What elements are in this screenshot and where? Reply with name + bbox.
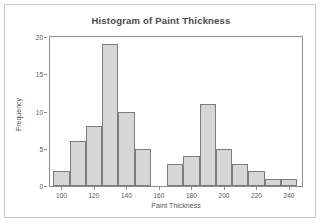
y-axis-tick (44, 37, 47, 38)
chart-title: Histogram of Paint Thickness (5, 15, 317, 26)
histogram-bar (167, 164, 183, 186)
histogram-bar (265, 179, 281, 186)
y-axis-tick-label: 10 (13, 108, 43, 115)
x-axis-tick (191, 187, 192, 190)
histogram-bar (281, 179, 297, 186)
x-axis-tick (94, 187, 95, 190)
histogram-bars (50, 37, 302, 186)
y-axis-tick (44, 186, 47, 187)
y-axis-tick (44, 149, 47, 150)
x-axis-tick (61, 187, 62, 190)
y-axis-tick (44, 74, 47, 75)
histogram-bar (86, 126, 102, 186)
histogram-bar (53, 171, 69, 186)
x-axis-tick-label: 200 (210, 192, 238, 199)
histogram-bar (183, 156, 199, 186)
x-axis-tick-label: 220 (242, 192, 270, 199)
y-axis-tick-label: 20 (13, 34, 43, 41)
histogram-bar (248, 171, 264, 186)
image-frame: Histogram of Paint Thickness Frequency 0… (4, 4, 316, 218)
x-axis-title: Paint Thickness (49, 202, 303, 209)
histogram-bar (70, 141, 86, 186)
x-axis-tick (256, 187, 257, 190)
x-axis-tick-label: 160 (145, 192, 173, 199)
x-axis-tick (289, 187, 290, 190)
y-axis-tick-label: 0 (13, 183, 43, 190)
x-axis-tick-label: 180 (177, 192, 205, 199)
histogram-bar (200, 104, 216, 186)
histogram-bar (102, 44, 118, 186)
x-axis-tick (224, 187, 225, 190)
y-axis-tick-label: 5 (13, 145, 43, 152)
histogram-bar (118, 112, 134, 187)
x-axis-tick (159, 187, 160, 190)
y-axis-tick-label: 15 (13, 71, 43, 78)
y-axis-tick (44, 112, 47, 113)
histogram-bar (216, 149, 232, 186)
x-axis-tick-label: 240 (275, 192, 303, 199)
x-axis-tick (126, 187, 127, 190)
x-axis-tick-label: 120 (80, 192, 108, 199)
histogram-bar (135, 149, 151, 186)
x-axis-tick-label: 100 (47, 192, 75, 199)
histogram-bar (232, 164, 248, 186)
x-axis-tick-label: 140 (112, 192, 140, 199)
